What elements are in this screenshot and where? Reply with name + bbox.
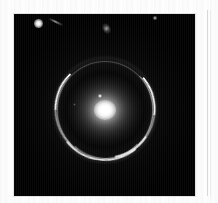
knot-near-core bbox=[98, 94, 102, 98]
point-source-upper-right bbox=[153, 16, 157, 20]
point-source-upper-left bbox=[34, 19, 43, 28]
einstein-ring-image-panel bbox=[14, 14, 195, 196]
right-margin-rule bbox=[207, 10, 208, 196]
lens-galaxy-core bbox=[94, 100, 116, 120]
faint-dot-left bbox=[73, 103, 76, 106]
right-margin-rule-secondary bbox=[210, 10, 211, 196]
page-canvas bbox=[0, 0, 218, 203]
